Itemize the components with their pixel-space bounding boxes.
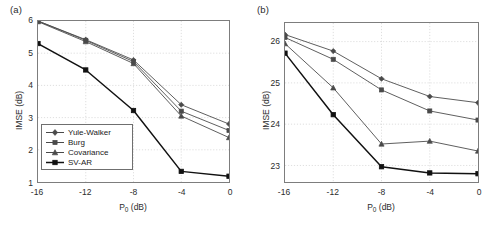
y-tick-label: 4 xyxy=(11,80,33,90)
legend-marker-square-filled-icon xyxy=(45,158,65,167)
x-tick-label: -12 xyxy=(327,187,339,197)
legend-label-burg: Burg xyxy=(68,138,85,147)
legend-item-sv-ar: SV-AR xyxy=(45,157,128,167)
legend-label-covariance: Covariance xyxy=(68,148,108,157)
panel-b-y-axis-title: IMSE (dB) xyxy=(261,91,271,130)
panel-a-y-axis-title: IMSE (dB) xyxy=(14,91,24,130)
legend-label-sv-ar: SV-AR xyxy=(68,158,92,167)
y-tick-label: 5 xyxy=(11,48,33,58)
panel-a-label: (a) xyxy=(10,4,22,15)
x-tick-label: -8 xyxy=(130,187,138,197)
panel-b-plot-area xyxy=(284,22,479,183)
legend-marker-diamond-icon xyxy=(45,128,65,137)
legend-item-covariance: Covariance xyxy=(45,147,128,157)
y-tick-label: 1 xyxy=(11,178,33,188)
panel-a-x-axis-title: P0 (dB) xyxy=(119,202,147,213)
y-tick-label: 25 xyxy=(258,78,280,88)
x-tick-label: 0 xyxy=(477,187,482,197)
y-tick-label: 2 xyxy=(11,145,33,155)
legend-item-yule-walker: Yule-Walker xyxy=(45,127,128,137)
legend-item-burg: Burg xyxy=(45,137,128,147)
legend-label-yule-walker: Yule-Walker xyxy=(68,128,111,137)
panel-a: (a) 123456 -16-12-8-40 P0 (dB) IMSE (dB)… xyxy=(0,0,249,230)
panel-b: (b) 23242526 -16-12-8-40 P0 (dB) IMSE (d… xyxy=(249,0,498,230)
x-tick-label: 0 xyxy=(228,187,233,197)
x-tick-label: -16 xyxy=(31,187,43,197)
legend-marker-triangle-icon xyxy=(45,148,65,157)
x-tick-label: -16 xyxy=(278,187,290,197)
x-tick-label: -12 xyxy=(79,187,91,197)
x-tick-label: -4 xyxy=(426,187,434,197)
x-tick-label: -4 xyxy=(178,187,186,197)
legend-marker-square-icon xyxy=(45,138,65,147)
panel-b-x-axis-title: P0 (dB) xyxy=(367,202,395,213)
x-tick-label: -8 xyxy=(378,187,386,197)
figure-two-panel-imse: (a) 123456 -16-12-8-40 P0 (dB) IMSE (dB)… xyxy=(0,0,498,230)
y-tick-label: 23 xyxy=(258,161,280,171)
legend: Yule-Walker Burg Covariance xyxy=(41,124,133,170)
panel-b-label: (b) xyxy=(257,4,269,15)
y-tick-label: 26 xyxy=(258,36,280,46)
panel-b-plot-svg xyxy=(285,23,478,182)
y-tick-label: 6 xyxy=(11,15,33,25)
